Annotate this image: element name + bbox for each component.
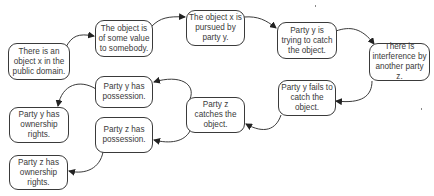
node-label: Party z has ownership rights.	[12, 158, 65, 188]
node-label: Party z catches the object.	[189, 100, 242, 130]
node-party-y-fails: Party y fails to catch the object.	[278, 80, 336, 116]
flowchart-canvas: There is an object x in the public domai…	[0, 0, 434, 196]
edge-n4-n5	[336, 29, 374, 44]
edge-n7-n9	[154, 131, 190, 142]
node-label: Party y is trying to catch the object.	[280, 26, 334, 56]
node-label: Party y has possession.	[98, 82, 150, 102]
node-label: Party z has possession.	[98, 125, 150, 145]
node-label: Party y has ownership rights.	[12, 110, 66, 140]
edge-n5-n6	[336, 81, 372, 102]
edge-n7-n8	[154, 79, 191, 99]
edge-n1-n2	[66, 35, 94, 47]
artifact-speck	[315, 5, 316, 7]
node-party-z-possession: Party z has possession.	[95, 117, 153, 153]
artifact-speck	[421, 108, 422, 110]
node-object-pursued: The object x is pursued by party y.	[186, 10, 245, 46]
node-party-z-catches: Party z catches the object.	[186, 97, 245, 133]
node-label: There is an object x in the public domai…	[11, 47, 67, 77]
edge-n8-n10	[58, 84, 96, 106]
node-party-y-possession: Party y has possession.	[95, 76, 153, 108]
node-party-y-ownership: Party y has ownership rights.	[9, 107, 69, 143]
node-object-has-value: The object is of some value to somebody.	[95, 20, 153, 57]
node-label: The object is of some value to somebody.	[98, 24, 150, 54]
node-label: Party y fails to catch the object.	[281, 83, 333, 113]
node-label: There is interference by another party z…	[372, 42, 427, 82]
edge-n3-n4	[244, 17, 276, 28]
node-object-in-public-domain: There is an object x in the public domai…	[8, 43, 70, 80]
edge-n2-n3	[152, 17, 185, 26]
node-interference: There is interference by another party z…	[369, 43, 430, 81]
node-party-z-ownership: Party z has ownership rights.	[9, 155, 68, 190]
node-party-y-trying: Party y is trying to catch the object.	[277, 22, 337, 59]
edge-n6-n7	[246, 115, 281, 130]
edge-n9-n11	[69, 152, 103, 172]
node-label: The object x is pursued by party y.	[189, 13, 242, 43]
